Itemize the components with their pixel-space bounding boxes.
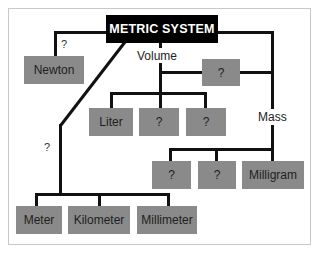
connector-meter-vertical: [35, 193, 38, 207]
connector-millimeter-vertical: [167, 193, 170, 207]
volume-unknown-node-1: ?: [139, 108, 179, 136]
newton-node: Newton: [24, 56, 84, 84]
connector-kilometer-vertical: [98, 193, 101, 207]
connector-length-children-horizontal: [35, 193, 170, 196]
newton-edge-label: ?: [61, 38, 67, 50]
meter-node: Meter: [16, 206, 62, 234]
liter-node: Liter: [89, 108, 133, 136]
volume-unknown-node-2: ?: [186, 108, 226, 136]
milligram-node: Milligram: [242, 161, 304, 189]
metric-system-root-node: METRIC SYSTEM: [106, 15, 218, 43]
mass-unknown-node-2: ?: [198, 161, 236, 189]
volume-branch-label: Volume: [136, 49, 178, 63]
mass-unknown-node-1: ?: [152, 161, 191, 189]
mass-branch-label: Mass: [257, 110, 288, 124]
length-edge-label: ?: [44, 141, 50, 153]
kilometer-node: Kilometer: [68, 206, 130, 234]
millimeter-node: Millimeter: [137, 206, 197, 234]
volume-unknown-node: ?: [202, 59, 240, 86]
connector-length-vertical: [59, 124, 62, 196]
